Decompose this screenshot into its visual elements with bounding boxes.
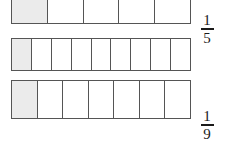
fraction-bar-diagram: 1 5 1 9 1 7 — [0, 0, 226, 158]
bar-cell — [114, 81, 140, 118]
bar-cell — [165, 81, 190, 118]
bar-cell — [32, 39, 52, 70]
bar-cell-shaded — [12, 39, 32, 70]
bar-cell — [140, 81, 166, 118]
bar-cell — [92, 39, 112, 70]
fraction-denominator: 9 — [203, 127, 211, 141]
bar-ninths — [11, 38, 191, 71]
bar-cell — [63, 81, 89, 118]
fraction-numerator: 1 — [203, 109, 211, 123]
fraction-label-ninths: 1 9 — [196, 108, 218, 142]
bar-cell — [119, 0, 155, 23]
bar-cell — [171, 39, 190, 70]
bar-cell — [84, 0, 120, 23]
bar-cell-shaded — [12, 0, 48, 23]
bar-cell — [89, 81, 115, 118]
bar-cell — [131, 39, 151, 70]
bar-sevenths — [11, 80, 191, 119]
bar-cell — [48, 0, 84, 23]
bar-cell — [111, 39, 131, 70]
bar-fifths — [11, 0, 191, 24]
bar-cell — [151, 39, 171, 70]
fraction-numerator: 1 — [203, 13, 211, 27]
fraction-label-fifths: 1 5 — [196, 11, 218, 47]
bar-cell — [38, 81, 64, 118]
fraction-denominator: 5 — [203, 31, 211, 45]
bar-cell — [52, 39, 72, 70]
bar-cell — [72, 39, 92, 70]
bar-cell-shaded — [12, 81, 38, 118]
bar-cell — [155, 0, 190, 23]
